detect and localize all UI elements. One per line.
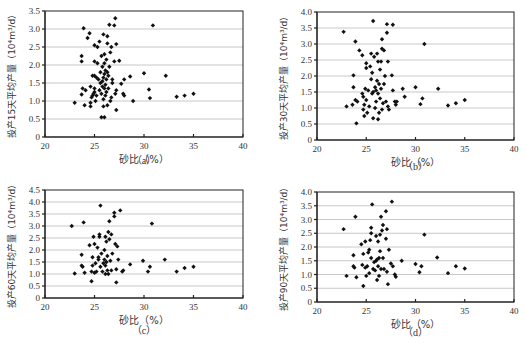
data-point	[386, 282, 390, 286]
panel-b: 00.51.01.52.02.53.03.54.02025303540砂比（%）…	[278, 7, 519, 172]
x-tick-label: 40	[239, 141, 249, 151]
data-point	[150, 221, 154, 225]
x-tick-label: 35	[460, 144, 470, 154]
data-point	[79, 54, 83, 58]
data-point	[82, 103, 86, 107]
data-point	[365, 111, 369, 115]
data-point	[360, 263, 364, 267]
y-tick-label: 1.5	[29, 257, 41, 267]
data-point	[375, 51, 379, 55]
data-point	[381, 223, 385, 227]
y-tick-label: 1.0	[29, 269, 41, 279]
y-axis-label: 投产90天平均产量（10⁴m³/d）	[278, 183, 289, 312]
data-point	[110, 251, 114, 255]
y-tick-label: 1.0	[29, 96, 41, 106]
y-tick-label: 3.0	[301, 39, 313, 49]
data-point	[363, 239, 367, 243]
data-point	[174, 269, 178, 273]
data-point	[106, 272, 110, 276]
y-tick-label: 3.0	[301, 215, 313, 225]
data-point	[109, 232, 113, 236]
x-tick-label: 30	[140, 302, 150, 312]
data-point	[380, 37, 384, 41]
data-point	[390, 73, 394, 77]
data-point	[116, 257, 120, 261]
panel-caption: （d）	[403, 327, 428, 338]
data-point	[105, 41, 109, 45]
data-point	[376, 264, 380, 268]
data-point	[106, 74, 110, 78]
data-point	[368, 64, 372, 68]
data-point	[148, 265, 152, 269]
data-point	[435, 255, 439, 259]
y-tick-label: 1.5	[301, 87, 313, 97]
data-point	[368, 238, 372, 242]
data-point	[104, 239, 108, 243]
data-point	[379, 215, 383, 219]
data-point	[97, 232, 101, 236]
data-point	[375, 278, 379, 282]
data-point	[369, 226, 373, 230]
data-point	[374, 234, 378, 238]
data-point	[362, 114, 366, 118]
data-point	[174, 94, 178, 98]
y-tick-label: 1.5	[301, 256, 313, 266]
data-point	[364, 66, 368, 70]
data-point	[463, 266, 467, 270]
data-point	[109, 268, 113, 272]
data-point	[97, 39, 101, 43]
data-point	[394, 103, 398, 107]
data-point	[87, 31, 91, 35]
data-point	[109, 45, 113, 49]
data-point	[385, 22, 389, 26]
data-point	[381, 256, 385, 260]
data-point	[420, 96, 424, 100]
y-tick-label: 3.5	[301, 23, 313, 33]
y-tick-label: 0.5	[29, 281, 41, 291]
data-point	[371, 19, 375, 23]
data-point	[419, 264, 423, 268]
data-point	[390, 199, 394, 203]
data-point	[382, 267, 386, 271]
y-tick-label: 3.0	[29, 24, 41, 34]
data-point	[378, 96, 382, 100]
data-point	[385, 270, 389, 274]
data-point	[99, 251, 103, 255]
data-point	[182, 266, 186, 270]
data-point	[92, 242, 96, 246]
data-point	[373, 106, 377, 110]
data-point	[114, 88, 118, 92]
y-axis-label: 投产30天平均产量（10⁴m³/d）	[278, 12, 289, 141]
data-point	[106, 230, 110, 234]
y-tick-label: 2.5	[29, 233, 41, 243]
data-point	[353, 215, 357, 219]
data-point	[107, 22, 111, 26]
data-point	[79, 59, 83, 63]
data-point	[371, 116, 375, 120]
data-point	[354, 275, 358, 279]
data-point	[95, 245, 99, 249]
data-point	[418, 102, 422, 106]
x-tick-label: 25	[90, 302, 100, 312]
data-point	[128, 74, 132, 78]
x-tick-label: 30	[140, 141, 150, 151]
data-point	[100, 269, 104, 273]
data-point	[369, 77, 373, 81]
data-point	[400, 87, 404, 91]
data-point	[385, 31, 389, 35]
x-tick-label: 20	[313, 144, 323, 154]
y-tick-label: 0.5	[29, 114, 41, 124]
data-point	[383, 74, 387, 78]
data-point	[102, 248, 106, 252]
data-point	[353, 39, 357, 43]
data-point	[117, 58, 121, 62]
data-point	[402, 95, 406, 99]
data-point	[378, 67, 382, 71]
data-point	[369, 256, 373, 260]
x-tick-label: 40	[510, 306, 520, 316]
y-tick-label: 2.0	[301, 242, 313, 252]
data-point	[413, 262, 417, 266]
data-point	[164, 74, 168, 78]
data-point	[89, 279, 93, 283]
data-point	[114, 267, 118, 271]
